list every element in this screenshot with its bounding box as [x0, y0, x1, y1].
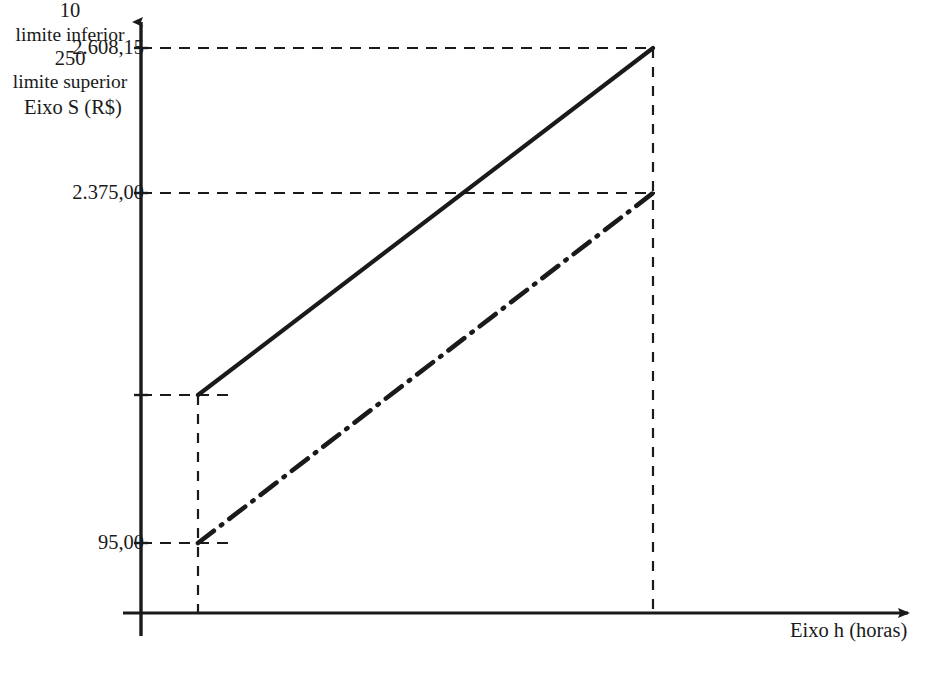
chart-figure: 2.608,15 2.375,00 95,00 Eixo S (R$) Eixo… [0, 0, 939, 690]
series-group [198, 48, 653, 543]
y-axis-title: Eixo S (R$) [24, 97, 122, 118]
y-axis-tick-label-upper: 2.608,15 [72, 37, 144, 58]
guide-lines [141, 48, 655, 613]
series-line-dash-dot [198, 193, 653, 543]
axes-group [123, 22, 908, 636]
y-axis-tick-label-low: 95,00 [98, 532, 144, 553]
y-axis-tick-label-mid: 2.375,00 [72, 182, 144, 203]
chart-plot-area [0, 0, 939, 690]
x-axis-title: Eixo h (horas) [790, 620, 907, 641]
series-line-solid [198, 48, 653, 395]
